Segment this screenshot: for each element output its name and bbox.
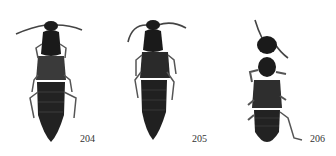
specimen-label-206: 206 xyxy=(310,134,325,144)
beetle-206-image xyxy=(0,0,336,156)
specimen-label-204: 204 xyxy=(80,134,95,144)
beetle-specimen-plate: 204 205 206 xyxy=(0,0,336,156)
specimen-label-205: 205 xyxy=(192,134,207,144)
